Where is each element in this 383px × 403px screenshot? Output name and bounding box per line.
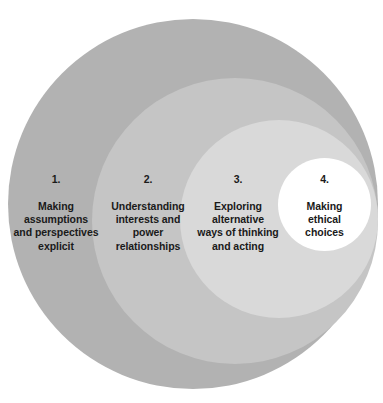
stage-2-label: 2. Understanding interests and power rel… bbox=[101, 160, 195, 266]
stage-4-label: 4. Making ethical choices bbox=[283, 160, 366, 253]
stage-3-text: Exploring alternative ways of thinking a… bbox=[192, 200, 284, 253]
stage-4-number: 4. bbox=[283, 173, 366, 186]
stage-1-text: Making assumptions and perspectives expl… bbox=[8, 200, 104, 253]
stage-3-label: 3. Exploring alternative ways of thinkin… bbox=[192, 160, 284, 266]
stage-1-number: 1. bbox=[8, 173, 104, 186]
stage-2-number: 2. bbox=[101, 173, 195, 186]
stage-1-label: 1. Making assumptions and perspectives e… bbox=[8, 160, 104, 266]
stage-2-text: Understanding interests and power relati… bbox=[101, 200, 195, 253]
concentric-circles-diagram: 1. Making assumptions and perspectives e… bbox=[0, 0, 383, 403]
stage-3-number: 3. bbox=[192, 173, 284, 186]
stage-4-text: Making ethical choices bbox=[283, 200, 366, 240]
